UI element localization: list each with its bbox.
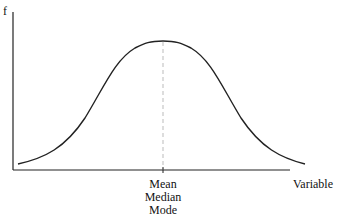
center-labels: Mean Median Mode bbox=[133, 178, 193, 217]
mode-label: Mode bbox=[133, 204, 193, 217]
y-axis-label: f bbox=[3, 5, 7, 18]
x-axis-label: Variable bbox=[293, 178, 333, 191]
bell-curve bbox=[18, 41, 305, 164]
